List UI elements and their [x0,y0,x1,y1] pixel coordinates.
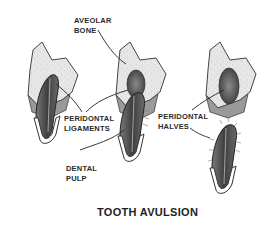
label-peridontal-ligaments-line2: LIGAMENTS [64,124,114,134]
label-peridontal-halves: PERIDONTAL HALVES [158,112,208,131]
label-peridontal-ligaments-line1: PERIDONTAL [64,114,114,124]
label-dental-pulp-line2: PULP [66,174,97,184]
diagram-title: TOOTH AVULSION [97,206,198,218]
label-peridontal-halves-line2: HALVES [158,122,208,132]
panel-3-tooth-fully-avulsed [206,42,256,193]
label-peridontal-halves-line1: PERIDONTAL [158,112,208,122]
label-aveolar-bone-line1: AVEOLAR [74,16,112,26]
label-dental-pulp: DENTAL PULP [66,164,97,183]
panel-2-tooth-partially-displaced [116,42,166,161]
label-aveolar-bone-line2: BONE [74,26,112,36]
label-peridontal-ligaments: PERIDONTAL LIGAMENTS [64,114,114,133]
label-dental-pulp-line1: DENTAL [66,164,97,174]
tooth-avulsion-diagram: AVEOLAR BONE PERIDONTAL LIGAMENTS DENTAL… [0,0,277,230]
label-aveolar-bone: AVEOLAR BONE [74,16,112,35]
diagram-illustration [0,0,277,230]
